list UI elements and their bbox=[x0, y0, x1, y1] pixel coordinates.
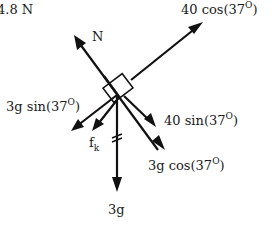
gravity-parallel-label: 3g sin(37O) bbox=[6, 97, 80, 114]
applied-parallel-label: 40 cos(37O) bbox=[181, 0, 258, 17]
weight-arrow bbox=[112, 95, 122, 192]
applied-parallel-arrow bbox=[131, 22, 203, 80]
gravity-perp-arrow bbox=[152, 135, 165, 150]
gravity-perp-label: 3g cos(37O) bbox=[148, 156, 225, 173]
top-left-value: 4.8 N bbox=[0, 2, 33, 17]
free-body-diagram: 4.8 N N 40 cos(37O) 40 sin(37O) 3g cos(3… bbox=[0, 0, 279, 226]
normal-force-label: N bbox=[92, 29, 103, 44]
applied-perp-label: 40 sin(37O) bbox=[164, 111, 238, 128]
friction-label: fk bbox=[89, 135, 100, 153]
weight-label: 3g bbox=[108, 202, 125, 217]
